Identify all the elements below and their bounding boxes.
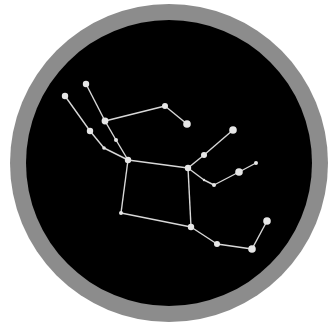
- constellation-chart: [0, 0, 336, 326]
- star-icon: [188, 224, 194, 230]
- star-icon: [87, 128, 93, 134]
- star-icon: [62, 93, 68, 99]
- star-icon: [125, 157, 131, 163]
- star-icon: [83, 81, 89, 87]
- star-icon: [263, 217, 271, 225]
- star-icon: [102, 146, 106, 150]
- star-icon: [114, 138, 118, 142]
- star-icon: [185, 165, 191, 171]
- star-icon: [229, 126, 237, 134]
- star-icon: [214, 241, 220, 247]
- star-icon: [248, 245, 256, 253]
- night-sky-disc: [26, 20, 312, 306]
- star-icon: [212, 183, 216, 187]
- star-icon: [203, 179, 205, 181]
- star-icon: [235, 168, 243, 176]
- star-icon: [201, 152, 207, 158]
- star-icon: [254, 161, 258, 165]
- star-icon: [102, 118, 109, 125]
- star-icon: [162, 103, 168, 109]
- star-icon: [119, 211, 123, 215]
- star-icon: [183, 120, 191, 128]
